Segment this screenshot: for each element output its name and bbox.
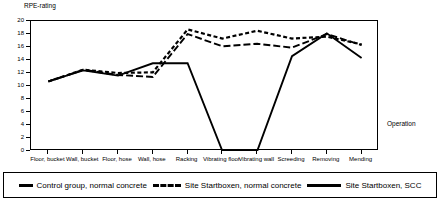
dotted-swatch xyxy=(153,184,181,187)
legend-label: Site Startboxen, SCC xyxy=(345,181,421,190)
y-axis-tick-label: 0 xyxy=(6,147,24,153)
series-line xyxy=(48,29,361,81)
x-axis-tick-label: Mending xyxy=(349,156,372,163)
legend-item: Control group, normal concrete xyxy=(19,181,147,190)
x-axis-tick-label: Wall, bucket xyxy=(66,156,98,163)
y-axis-title: RPE-rating xyxy=(24,2,56,10)
y-axis-tick xyxy=(26,150,30,151)
y-axis-tick-label: 10 xyxy=(6,82,24,88)
plot-area xyxy=(30,20,378,150)
y-axis-tick-label: 14 xyxy=(6,56,24,62)
x-axis-tick-label: Floor, bucket xyxy=(30,156,64,163)
legend-item: Site Startboxen, SCC xyxy=(307,181,421,190)
series-lines xyxy=(31,21,379,151)
dash-swatch xyxy=(19,184,33,187)
y-axis-tick-label: 4 xyxy=(6,121,24,127)
x-axis-tick-label: Floor, hose xyxy=(102,156,132,163)
y-axis-tick-label: 2 xyxy=(6,134,24,140)
y-axis-tick-label: 8 xyxy=(6,95,24,101)
y-axis-tick-label: 6 xyxy=(6,108,24,114)
x-axis-title: Operation xyxy=(387,120,416,128)
chart-screenshot: RPE-rating Operation 02468101214161820 F… xyxy=(0,0,442,203)
y-axis-tick-label: 12 xyxy=(6,69,24,75)
x-axis-tick-label: Vibrating floor xyxy=(203,156,240,163)
y-axis-tick-label: 20 xyxy=(6,17,24,23)
line-chart: RPE-rating Operation 02468101214161820 F… xyxy=(0,0,442,170)
series-line xyxy=(48,33,361,151)
x-axis-tick-label: Removing xyxy=(312,156,339,163)
x-axis-tick-label: Vibrating wall xyxy=(238,156,274,163)
x-axis-tick-label: Wall, hose xyxy=(138,156,166,163)
x-axis-tick-label: Screeding xyxy=(277,156,304,163)
legend-label: Site Startboxen, normal concrete xyxy=(185,181,302,190)
solid-swatch xyxy=(307,184,341,187)
y-axis-tick-label: 16 xyxy=(6,43,24,49)
chart-legend: Control group, normal concrete Site Star… xyxy=(3,172,437,198)
legend-item: Site Startboxen, normal concrete xyxy=(153,181,302,190)
y-axis-tick-label: 18 xyxy=(6,30,24,36)
legend-label: Control group, normal concrete xyxy=(37,181,147,190)
x-axis-tick-label: Racking xyxy=(176,156,198,163)
